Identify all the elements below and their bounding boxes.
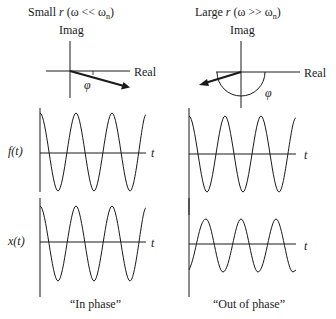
left-title-prefix: Small bbox=[28, 5, 59, 19]
right-real-label: Real bbox=[304, 67, 326, 79]
right-x-wave bbox=[189, 219, 296, 272]
left-f-t-label: t bbox=[151, 147, 154, 159]
left-x-plot bbox=[40, 198, 146, 297]
left-phi-label: φ bbox=[84, 79, 91, 91]
arrowhead-icon bbox=[121, 82, 130, 90]
left-f-wave bbox=[40, 113, 146, 191]
right-title-var: r bbox=[226, 5, 231, 19]
left-title: Small r (ω << ωn) bbox=[28, 6, 114, 21]
left-caption: “In phase” bbox=[70, 298, 121, 310]
right-f-t-label: t bbox=[304, 149, 307, 161]
right-title-cond: (ω >> ω bbox=[233, 5, 272, 19]
left-f-plot bbox=[40, 108, 146, 192]
x-axis-label: x(t) bbox=[8, 235, 25, 247]
arrowhead-icon bbox=[199, 79, 209, 86]
left-title-close: ) bbox=[110, 5, 114, 19]
diagram-canvas bbox=[0, 0, 336, 319]
left-imag-label: Imag bbox=[59, 24, 84, 36]
left-x-t-label: t bbox=[151, 237, 154, 249]
left-title-var: r bbox=[59, 5, 64, 19]
left-phasor-arrow bbox=[70, 71, 124, 86]
f-axis-label: f(t) bbox=[8, 145, 23, 157]
right-title-close: ) bbox=[277, 5, 281, 19]
right-x-t-label: t bbox=[304, 240, 307, 252]
right-f-plot bbox=[189, 108, 296, 215]
right-phasor bbox=[199, 41, 300, 108]
right-x-plot bbox=[189, 198, 296, 297]
left-x-wave bbox=[40, 206, 146, 281]
right-phasor-arrow bbox=[205, 72, 241, 83]
right-phi-label: φ bbox=[265, 87, 272, 99]
right-title-prefix: Large bbox=[195, 5, 226, 19]
left-real-label: Real bbox=[134, 66, 156, 78]
left-title-cond: (ω << ω bbox=[67, 5, 106, 19]
right-title: Large r (ω >> ωn) bbox=[195, 6, 281, 21]
right-imag-label: Imag bbox=[230, 24, 255, 36]
right-caption: “Out of phase” bbox=[213, 298, 285, 310]
